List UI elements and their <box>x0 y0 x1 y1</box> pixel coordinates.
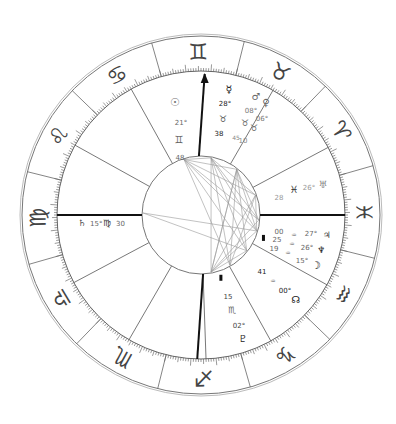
degree-tick <box>130 86 131 89</box>
degree-tick <box>319 131 321 133</box>
moon-sign: ♒ <box>285 249 290 256</box>
degree-tick <box>336 165 339 166</box>
degree-tick <box>334 271 337 272</box>
degree-tick <box>92 311 94 313</box>
jupiter-degree: 27° <box>305 230 317 238</box>
sun-minute: 48 <box>176 154 185 162</box>
degree-tick <box>103 106 105 108</box>
degree-tick <box>299 320 301 322</box>
degree-tick <box>233 72 234 75</box>
degree-tick <box>335 269 338 270</box>
degree-tick <box>303 317 305 319</box>
uranus-degree: 26° <box>303 184 315 192</box>
degree-tick <box>101 320 103 322</box>
degree-tick <box>132 85 133 88</box>
zodiac-sign-aries-icon: ♈ <box>325 116 357 146</box>
sign-boundary <box>158 355 166 389</box>
degree-tick <box>134 84 135 87</box>
saturn-icon: ♄ <box>78 218 86 228</box>
imum-coeli-axis <box>197 274 203 359</box>
degree-tick <box>69 151 72 152</box>
sun-icon: ☉ <box>170 96 180 109</box>
degree-tick <box>343 240 346 241</box>
degree-tick <box>336 264 339 265</box>
degree-tick <box>101 107 103 109</box>
degree-tick <box>233 355 234 358</box>
degree-tick <box>301 319 303 321</box>
degree-tick <box>56 240 59 241</box>
degree-tick <box>110 99 112 101</box>
mercury-degree: 28° <box>219 100 231 108</box>
degree-tick <box>146 79 147 82</box>
zodiac-sign-pisces-icon: ♓ <box>351 202 376 222</box>
degree-tick <box>269 342 270 345</box>
neptune-minute: 25 <box>273 236 282 244</box>
sign-boundary <box>241 353 251 387</box>
degree-tick <box>228 356 229 361</box>
degree-tick <box>330 149 336 152</box>
degree-tick <box>314 304 316 306</box>
degree-tick <box>65 160 68 161</box>
neptune-degree: 26° <box>301 244 313 252</box>
degree-tick <box>273 340 275 343</box>
degree-tick <box>245 352 246 355</box>
degree-tick <box>328 146 331 147</box>
degree-tick <box>236 355 237 358</box>
degree-tick <box>134 343 135 346</box>
degree-tick <box>319 298 321 300</box>
degree-tick <box>335 160 338 161</box>
degree-tick <box>231 356 232 359</box>
degree-tick <box>326 142 329 144</box>
degree-tick <box>310 309 312 311</box>
mars-degree: 08° <box>245 107 257 115</box>
degree-tick <box>178 357 179 362</box>
degree-tick <box>340 252 343 253</box>
degree-tick <box>57 245 60 246</box>
moon-icon: ☽ <box>311 259 321 272</box>
degree-tick <box>329 280 332 281</box>
degree-tick <box>70 148 73 149</box>
degree-tick <box>99 109 101 111</box>
degree-tick <box>241 74 242 77</box>
degree-tick <box>332 276 335 277</box>
degree-tick <box>271 85 273 89</box>
degree-tick <box>316 302 318 304</box>
pluto-minute: 15 <box>224 293 233 301</box>
degree-tick <box>158 353 159 356</box>
degree-tick <box>243 353 244 356</box>
degree-tick <box>168 355 169 358</box>
degree-tick <box>95 315 97 317</box>
degree-tick <box>339 255 342 256</box>
degree-tick <box>243 74 244 77</box>
degree-tick <box>129 341 131 345</box>
degree-tick <box>165 72 166 75</box>
degree-tick <box>316 127 318 129</box>
degree-tick <box>253 78 254 81</box>
degree-tick <box>262 346 263 349</box>
degree-tick <box>156 75 157 78</box>
degree-tick <box>151 350 152 353</box>
degree-tick <box>173 69 174 74</box>
pisces-group: 28 ♓ 26° ♅ <box>275 179 328 202</box>
degree-tick <box>238 354 239 357</box>
zodiac-sign-taurus-icon: ♉ <box>265 57 294 88</box>
degree-tick <box>313 122 315 124</box>
degree-tick <box>62 262 65 263</box>
midheaven-arrow-icon <box>201 73 209 83</box>
degree-tick <box>60 174 63 175</box>
degree-tick <box>72 285 75 286</box>
degree-tick <box>173 356 174 359</box>
degree-tick <box>113 98 115 100</box>
degree-tick <box>107 327 110 331</box>
mercury-sign: ♉ <box>219 114 227 124</box>
house-cusp-6 <box>253 147 328 187</box>
degree-tick <box>303 111 305 113</box>
degree-tick <box>88 308 90 310</box>
pluto-degree: 02° <box>233 322 245 330</box>
degree-tick <box>160 353 161 356</box>
degree-tick <box>105 324 107 326</box>
degree-tick <box>61 170 64 171</box>
degree-tick <box>238 73 239 76</box>
degree-tick <box>84 302 86 304</box>
aquarius-group: 00 ♒ 27° ♃ 25 ♒ 26° ♆ 19 ♒ 15° ☽ <box>270 228 332 272</box>
